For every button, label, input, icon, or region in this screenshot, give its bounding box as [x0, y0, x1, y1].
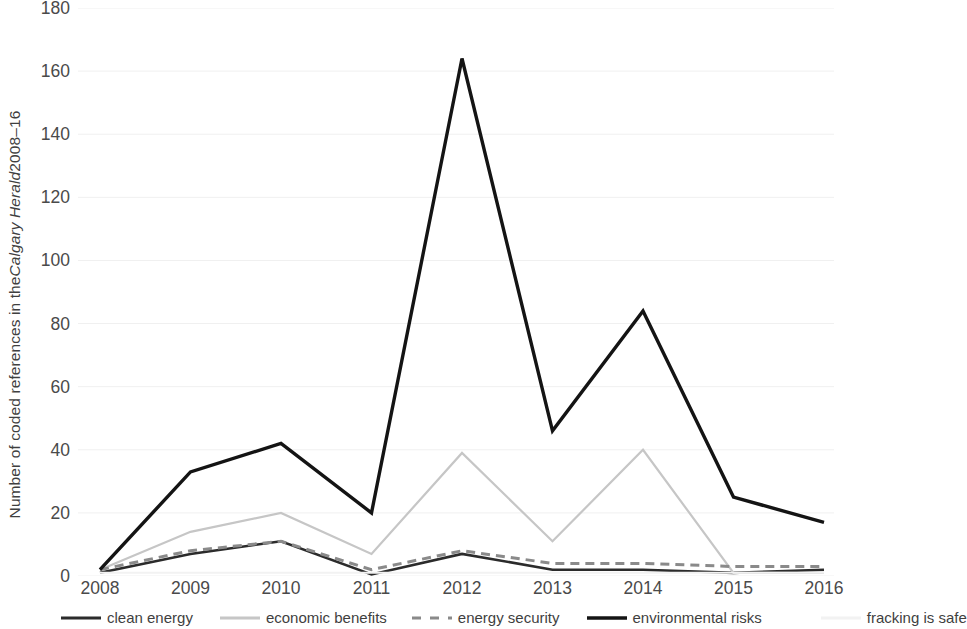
- plot-area: [78, 8, 834, 576]
- legend-item-label: economic benefits: [266, 609, 387, 626]
- y-axis-tick-label: 180: [22, 0, 70, 19]
- legend-item-label: environmental risks: [633, 609, 762, 626]
- legend-item-clean-energy[interactable]: clean energy: [60, 609, 193, 626]
- x-axis-tick-label: 2012: [422, 578, 502, 599]
- x-axis-tick-label: 2014: [603, 578, 683, 599]
- x-axis-tick-label: 2016: [784, 578, 864, 599]
- x-axis-tick-label: 2015: [694, 578, 774, 599]
- x-axis-tick-labels: 200820092010201120122013201420152016: [78, 578, 834, 604]
- series-line-energy-security: [100, 541, 824, 569]
- series-line-environmental-risks: [100, 58, 824, 569]
- y-axis-tick-labels: 180160140120100806040200: [22, 0, 70, 590]
- y-axis-tick-label: 40: [22, 439, 70, 460]
- x-axis-tick-label: 2011: [332, 578, 412, 599]
- y-axis-tick-label: 80: [22, 313, 70, 334]
- legend-item-energy-security[interactable]: energy security: [411, 609, 560, 626]
- line-swatch-solid-dark-icon: [60, 611, 102, 625]
- legend-item-label: energy security: [458, 609, 560, 626]
- legend-item-label: clean energy: [107, 609, 193, 626]
- line-swatch-dashed-gray-icon: [411, 611, 453, 625]
- y-axis-tick-label: 140: [22, 124, 70, 145]
- x-axis-tick-label: 2009: [151, 578, 231, 599]
- x-axis-tick-label: 2010: [241, 578, 321, 599]
- legend-item-environmental-risks[interactable]: environmental risks: [586, 609, 762, 626]
- legend-item-fracking-is-safe[interactable]: fracking is safe: [820, 609, 967, 626]
- y-axis-tick-label: 160: [22, 61, 70, 82]
- series-line-clean-energy: [100, 541, 824, 574]
- line-swatch-solid-black-icon: [586, 611, 628, 625]
- legend-item-economic-benefits[interactable]: economic benefits: [219, 609, 387, 626]
- plot-svg: [78, 8, 834, 576]
- line-swatch-solid-light-icon: [219, 611, 261, 625]
- x-axis-tick-label: 2013: [513, 578, 593, 599]
- y-axis-tick-label: 100: [22, 250, 70, 271]
- x-axis-tick-label: 2008: [60, 578, 140, 599]
- y-axis-tick-label: 60: [22, 376, 70, 397]
- legend-item-label: fracking is safe: [867, 609, 967, 626]
- y-axis-tick-label: 120: [22, 187, 70, 208]
- chart-legend: clean energyeconomic benefitsenergy secu…: [60, 606, 842, 629]
- line-swatch-solid-faint-icon: [820, 611, 862, 625]
- y-axis-tick-label: 20: [22, 502, 70, 523]
